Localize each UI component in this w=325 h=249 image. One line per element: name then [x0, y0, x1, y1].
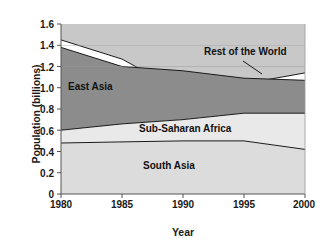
y-axis-ticks — [57, 24, 61, 194]
series-label-south-asia: South Asia — [143, 160, 195, 171]
series-label-rest-of-the-world: Rest of the World — [204, 46, 287, 57]
x-axis-ticks — [61, 194, 305, 198]
population-stacked-area-chart: 0 0.2 0.4 0.6 0.8 1.0 1.2 1.4 1.6 1980 1… — [0, 0, 325, 249]
series-label-sub-saharan-africa: Sub-Saharan Africa — [139, 123, 231, 134]
series-label-east-asia: East Asia — [68, 81, 113, 92]
